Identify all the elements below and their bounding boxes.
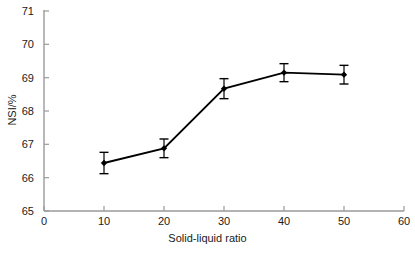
data-series-group (100, 64, 349, 174)
x-axis-ticks (44, 206, 404, 211)
data-marker (281, 69, 287, 75)
ytick-label-69: 69 (6, 72, 34, 83)
x-axis-title: Solid-liquid ratio (168, 232, 246, 244)
data-point-10 (100, 152, 109, 173)
data-point-20 (160, 139, 169, 158)
data-point-40 (280, 64, 289, 82)
ytick-label-66: 66 (6, 172, 34, 183)
data-marker (101, 160, 107, 166)
ytick-label-67: 67 (6, 139, 34, 150)
axes-frame (44, 10, 404, 211)
xtick-label-10: 10 (98, 216, 110, 227)
xtick-label-20: 20 (158, 216, 170, 227)
data-point-30 (220, 79, 229, 99)
data-point-50 (340, 65, 349, 84)
ytick-label-65: 65 (6, 206, 34, 217)
line-chart-plot (0, 0, 415, 253)
xtick-label-30: 30 (218, 216, 230, 227)
ytick-label-70: 70 (6, 39, 34, 50)
data-marker (341, 71, 347, 77)
xtick-label-0: 0 (41, 216, 47, 227)
y-axis-title: NSI/% (6, 94, 18, 125)
chart-figure: 71 70 69 68 67 66 65 0 10 20 30 40 50 60… (0, 0, 415, 253)
xtick-label-60: 60 (398, 216, 410, 227)
xtick-label-40: 40 (278, 216, 290, 227)
y-axis-ticks (44, 11, 49, 211)
xtick-label-50: 50 (338, 216, 350, 227)
ytick-label-71: 71 (6, 6, 34, 17)
